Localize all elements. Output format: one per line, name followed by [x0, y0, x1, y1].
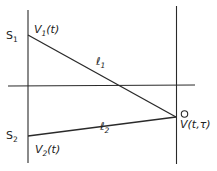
horizontal-line [8, 85, 195, 86]
path-2-label: ℓ2 [99, 120, 110, 135]
source-1-signal: V1(t) [34, 23, 59, 38]
receiver-marker [181, 111, 187, 117]
source-1-label: S1 [6, 29, 18, 44]
receiver-label: V(t,τ) [180, 118, 211, 131]
path-l1 [28, 35, 176, 117]
source-2-label: S2 [6, 129, 18, 144]
source-receiver-diagram: S1 V1(t) ℓ1 S2 V2(t) ℓ2 V(t,τ) [0, 0, 217, 171]
source-2-signal: V2(t) [35, 143, 60, 158]
path-1-label: ℓ1 [95, 55, 105, 70]
